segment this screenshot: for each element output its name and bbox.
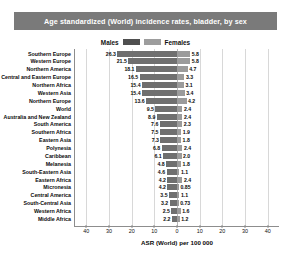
category-label: Micronesia bbox=[43, 183, 71, 191]
bar-female bbox=[177, 98, 187, 104]
bar-value-female: 1.9 bbox=[183, 128, 190, 136]
legend-swatch-females-icon bbox=[144, 39, 161, 45]
bar-female bbox=[177, 90, 185, 96]
category-label: Northern Africa bbox=[32, 81, 71, 89]
bar-male bbox=[140, 74, 177, 80]
bar-male bbox=[142, 90, 177, 96]
bar-row: South America7.62.3 bbox=[75, 120, 279, 128]
x-tick-label: 30 bbox=[242, 228, 248, 234]
bar-row: Central America3.51.1 bbox=[75, 191, 279, 199]
bar-male bbox=[160, 129, 177, 135]
bar-row: Polynesia6.82.4 bbox=[75, 144, 279, 152]
bar-male bbox=[167, 177, 177, 183]
bar-value-male: 4.2 bbox=[159, 176, 166, 184]
category-label: Western Europe bbox=[30, 57, 71, 65]
category-label: Northern America bbox=[26, 65, 71, 73]
bar-female bbox=[177, 114, 182, 120]
bar-value-male: 7.5 bbox=[151, 128, 158, 136]
plot-area: Southern Europe26.35.8Western Europe21.5… bbox=[75, 49, 279, 227]
bar-value-female: 1.1 bbox=[181, 168, 188, 176]
bar-value-female: 0.73 bbox=[180, 199, 190, 207]
bar-row: South-Central Asia3.20.73 bbox=[75, 199, 279, 207]
category-label: Eastern Africa bbox=[35, 176, 71, 184]
bar-value-female: 2.4 bbox=[184, 176, 191, 184]
bar-value-male: 2.5 bbox=[163, 207, 170, 215]
chart-legend: Males Females bbox=[0, 37, 291, 47]
bar-value-female: 1.2 bbox=[181, 215, 188, 223]
category-label: Caribbean bbox=[45, 152, 71, 160]
bar-row: Central and Eastern Europe16.53.3 bbox=[75, 73, 279, 81]
bar-value-female: 3.3 bbox=[186, 73, 193, 81]
bar-male bbox=[167, 169, 177, 175]
bar-male bbox=[128, 58, 177, 64]
bar-male bbox=[163, 153, 177, 159]
bar-male bbox=[155, 106, 177, 112]
bar-value-male: 9.5 bbox=[147, 105, 154, 113]
bar-row: Southern Europe26.35.8 bbox=[75, 50, 279, 58]
bar-row: Micronesia4.20.85 bbox=[75, 183, 279, 191]
bar-male bbox=[162, 145, 177, 151]
x-tick-label: 40 bbox=[265, 228, 271, 234]
bar-female bbox=[177, 106, 182, 112]
bar-female bbox=[177, 121, 182, 127]
bar-value-male: 3.2 bbox=[161, 199, 168, 207]
bar-value-male: 26.3 bbox=[106, 50, 116, 58]
bar-value-male: 8.9 bbox=[148, 113, 155, 121]
bar-female bbox=[177, 177, 182, 183]
category-label: Southern Africa bbox=[31, 128, 71, 136]
bar-value-male: 6.8 bbox=[153, 144, 160, 152]
bar-row: Middle Africa2.21.2 bbox=[75, 215, 279, 223]
category-label: Middle Africa bbox=[38, 215, 71, 223]
category-label: Northern Europe bbox=[29, 97, 71, 105]
bar-female bbox=[177, 51, 190, 57]
bar-value-male: 2.2 bbox=[163, 215, 170, 223]
bar-female bbox=[177, 208, 181, 214]
bar-value-male: 4.6 bbox=[158, 168, 165, 176]
bar-value-female: 1.1 bbox=[181, 191, 188, 199]
x-tick-label: 0 bbox=[176, 228, 179, 234]
x-axis-label: ASR (World) per 100 000 bbox=[75, 239, 279, 246]
bar-male bbox=[169, 192, 177, 198]
bar-value-male: 21.5 bbox=[117, 57, 127, 65]
page-title: Age standardized (World) incidence rates… bbox=[44, 17, 247, 26]
x-tick-label: 10 bbox=[197, 228, 203, 234]
category-label: Eastern Asia bbox=[39, 136, 71, 144]
bar-value-female: 1.6 bbox=[182, 207, 189, 215]
category-label: Australia and New Zealand bbox=[4, 113, 71, 121]
bar-row: Australia and New Zealand8.92.4 bbox=[75, 113, 279, 121]
bar-female bbox=[177, 66, 188, 72]
bar-value-male: 7.3 bbox=[152, 136, 159, 144]
bar-female bbox=[177, 82, 184, 88]
bar-value-male: 15.4 bbox=[130, 81, 140, 89]
bar-value-male: 3.5 bbox=[160, 191, 167, 199]
category-label: Central America bbox=[31, 191, 71, 199]
category-label: Central and Eastern Europe bbox=[1, 73, 71, 81]
bar-value-male: 15.4 bbox=[130, 89, 140, 97]
bar-female bbox=[177, 58, 190, 64]
bar-value-male: 4.2 bbox=[159, 183, 166, 191]
bar-value-female: 4.2 bbox=[188, 97, 195, 105]
bar-value-female: 2.4 bbox=[184, 144, 191, 152]
x-axis-ticks: 40302010010203040 bbox=[75, 228, 279, 237]
bar-rows: Southern Europe26.35.8Western Europe21.5… bbox=[75, 49, 279, 227]
bar-female bbox=[177, 74, 184, 80]
bar-value-female: 1.8 bbox=[183, 136, 190, 144]
bar-value-female: 5.8 bbox=[192, 57, 199, 65]
category-label: Polynesia bbox=[46, 144, 71, 152]
category-label: South-Central Asia bbox=[24, 199, 71, 207]
chart-title-banner: Age standardized (World) incidence rates… bbox=[14, 12, 277, 30]
bar-value-male: 18.1 bbox=[124, 65, 134, 73]
bar-male bbox=[166, 161, 177, 167]
x-tick-label: 10 bbox=[151, 228, 157, 234]
legend-label-males: Males bbox=[101, 39, 119, 46]
bar-value-male: 13.6 bbox=[135, 97, 145, 105]
bar-male bbox=[142, 82, 177, 88]
bar-row: Melanesia4.81.8 bbox=[75, 160, 279, 168]
bar-row: Northern Africa15.43.1 bbox=[75, 81, 279, 89]
bar-female bbox=[177, 129, 181, 135]
chart-page: Age standardized (World) incidence rates… bbox=[0, 0, 291, 260]
bar-male bbox=[136, 66, 177, 72]
bar-value-male: 7.6 bbox=[151, 120, 158, 128]
bar-value-female: 2.4 bbox=[184, 105, 191, 113]
category-label: South America bbox=[34, 120, 71, 128]
